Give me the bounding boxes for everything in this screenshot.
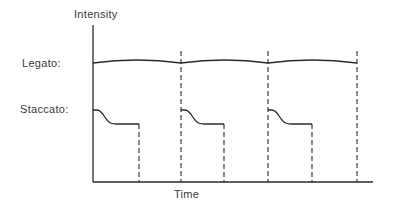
legato-envelope (93, 60, 357, 63)
staccato-envelope (93, 110, 312, 124)
articulation-diagram (0, 0, 395, 212)
note-boundary-markers (139, 51, 357, 182)
